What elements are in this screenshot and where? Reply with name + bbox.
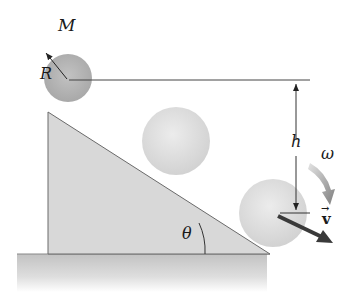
theta-label: θ	[182, 226, 192, 242]
height-label: h	[291, 134, 301, 150]
velocity-label: v	[322, 212, 331, 227]
mass-label: M	[58, 17, 75, 34]
sphere-middle	[142, 107, 210, 175]
radius-label: R	[40, 66, 52, 82]
omega-label: ω	[321, 146, 334, 162]
angular-velocity-arrow	[308, 163, 335, 205]
ground	[17, 254, 267, 292]
incline-diagram: M R h ω θ → v	[0, 0, 351, 297]
